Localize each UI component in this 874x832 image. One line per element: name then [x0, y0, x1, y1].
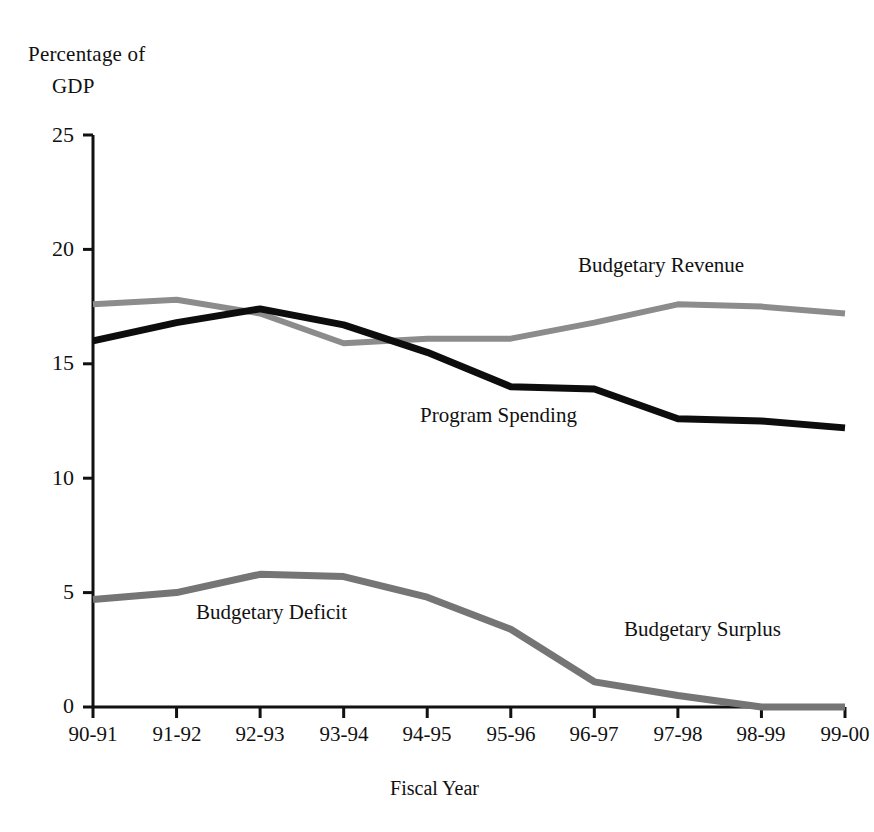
series-annotation-program-spending: Program Spending — [420, 403, 577, 428]
x-axis-title: Fiscal Year — [0, 777, 869, 800]
series-annotation-budgetary-revenue: Budgetary Revenue — [578, 253, 744, 278]
x-axis-ticks — [93, 707, 845, 718]
series-annotation-budgetary-surplus: Budgetary Surplus — [624, 617, 781, 642]
series-line-budgetary-revenue — [93, 300, 845, 343]
series-annotation-budgetary-deficit: Budgetary Deficit — [196, 600, 347, 625]
